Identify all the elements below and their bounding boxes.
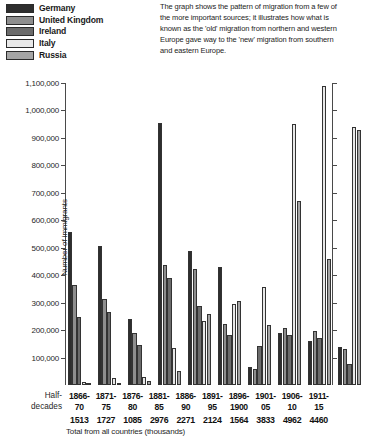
y-tick-label: 300,000 — [31, 298, 59, 307]
bar-italy — [172, 348, 176, 385]
y-tick-label: 200,000 — [31, 326, 59, 335]
plot-area: Number of immigrants 1,100,0001,000,0009… — [66, 83, 332, 385]
x-axis-label-line2: 15 — [302, 402, 336, 413]
bar-russia — [357, 130, 361, 385]
bar-united-kingdom — [193, 269, 197, 385]
bar-ireland — [317, 338, 321, 385]
totals-note: Total from all countries (thousands) — [66, 427, 185, 436]
y-tick-label: 600,000 — [31, 216, 59, 225]
bar-italy — [322, 86, 326, 385]
bar-ireland — [227, 335, 231, 385]
bar-germany — [308, 341, 312, 385]
bar-russia — [237, 301, 241, 385]
bar-germany — [128, 319, 132, 385]
x-axis-area: Half-decades 1866-701871-751876-801881-8… — [0, 387, 349, 439]
bar-italy — [202, 321, 206, 385]
legend-label: Italy — [39, 39, 55, 48]
legend-swatch-icon — [6, 16, 34, 25]
y-tick-label: 500,000 — [31, 243, 59, 252]
bar-groups — [66, 83, 332, 385]
legend-label: Ireland — [39, 27, 66, 36]
bar-ireland — [287, 335, 291, 385]
bar-united-kingdom — [102, 299, 106, 385]
bar-group — [276, 83, 306, 385]
y-tick-label: 700,000 — [31, 188, 59, 197]
bar-italy — [352, 127, 356, 385]
bar-ireland — [197, 306, 201, 385]
bar-germany — [338, 347, 342, 385]
bar-italy — [292, 124, 296, 385]
bar-united-kingdom — [313, 331, 317, 385]
bar-united-kingdom — [343, 349, 347, 385]
bar-united-kingdom — [163, 265, 167, 385]
bar-russia — [117, 383, 121, 385]
x-axis-title-line: Half- — [4, 391, 62, 402]
bar-italy — [142, 377, 146, 385]
bar-germany — [68, 232, 72, 385]
legend-swatch-icon — [6, 51, 34, 60]
legend-item-italy: Italy — [6, 38, 126, 50]
bar-russia — [297, 201, 301, 385]
bar-united-kingdom — [253, 369, 257, 385]
bar-germany — [278, 333, 282, 385]
bar-group — [246, 83, 276, 385]
legend-label: United Kingdom — [39, 16, 103, 25]
bar-ireland — [77, 317, 81, 385]
bar-group — [66, 83, 96, 385]
bar-italy — [232, 304, 236, 385]
bar-group — [96, 83, 126, 385]
legend-label: Russia — [39, 51, 66, 60]
bar-russia — [147, 381, 151, 385]
bar-russia — [86, 383, 90, 385]
bar-russia — [177, 371, 181, 385]
legend-label: Germany — [39, 4, 75, 13]
legend-swatch-icon — [6, 27, 34, 36]
bar-group — [306, 83, 336, 385]
x-axis-label-line1: 1911- — [302, 391, 336, 402]
bar-group — [126, 83, 156, 385]
bar-group — [156, 83, 186, 385]
bar-group — [336, 83, 365, 385]
bar-germany — [98, 246, 102, 385]
legend-swatch-icon — [6, 39, 34, 48]
bar-italy — [82, 382, 86, 385]
bar-germany — [188, 251, 192, 385]
bar-ireland — [167, 278, 171, 385]
bar-group — [216, 83, 246, 385]
bar-russia — [327, 259, 331, 385]
y-tick-label: 1,000,000 — [25, 106, 59, 115]
x-axis-label: 1911-15 — [302, 391, 336, 412]
bar-italy — [262, 287, 266, 385]
bar-ireland — [347, 364, 351, 385]
y-tick-label: 1,100,000 — [25, 79, 59, 88]
x-axis-total: 4460 — [302, 415, 336, 425]
legend-item-united-kingdom: United Kingdom — [6, 15, 126, 27]
legend-item-ireland: Ireland — [6, 26, 126, 38]
bar-russia — [207, 314, 211, 385]
bar-united-kingdom — [283, 328, 287, 385]
bar-germany — [248, 367, 252, 385]
bar-ireland — [107, 312, 111, 385]
legend-swatch-icon — [6, 4, 34, 13]
x-axis-title: Half-decades — [4, 391, 62, 412]
bar-italy — [112, 378, 116, 385]
chart-caption: The graph shows the pattern of migration… — [160, 2, 346, 57]
bar-germany — [218, 267, 222, 385]
legend-item-russia: Russia — [6, 49, 126, 61]
y-tick-label: 400,000 — [31, 271, 59, 280]
bar-group — [186, 83, 216, 385]
bar-russia — [267, 325, 271, 385]
bar-united-kingdom — [132, 333, 136, 385]
bar-ireland — [257, 346, 261, 385]
bar-ireland — [137, 345, 141, 385]
y-tick-label: 100,000 — [31, 353, 59, 362]
legend-item-germany: Germany — [6, 3, 126, 15]
bar-united-kingdom — [223, 324, 227, 385]
bar-germany — [158, 123, 162, 385]
y-tick-label: 900,000 — [31, 133, 59, 142]
x-axis-title-line: decades — [4, 402, 62, 413]
y-tick-label: 800,000 — [31, 161, 59, 170]
bar-united-kingdom — [72, 285, 76, 385]
chart-legend: GermanyUnited KingdomIrelandItalyRussia — [6, 3, 126, 61]
